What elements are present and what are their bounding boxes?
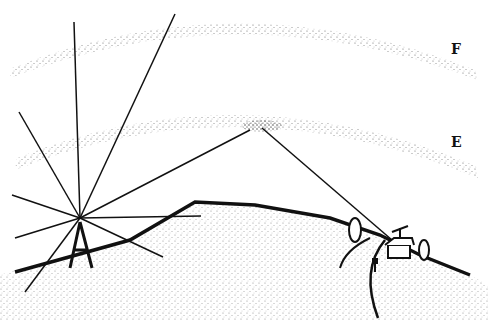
tree-icon xyxy=(349,218,361,242)
e-layer-label: E xyxy=(451,134,462,150)
diagram-artwork xyxy=(0,0,488,321)
tree-icon xyxy=(419,240,429,260)
f-layer-label: F xyxy=(451,41,461,57)
propagation-diagram: F E xyxy=(0,0,488,321)
f-layer-band xyxy=(10,23,478,80)
mailbox-icon xyxy=(372,258,378,264)
house-icon xyxy=(385,226,414,258)
